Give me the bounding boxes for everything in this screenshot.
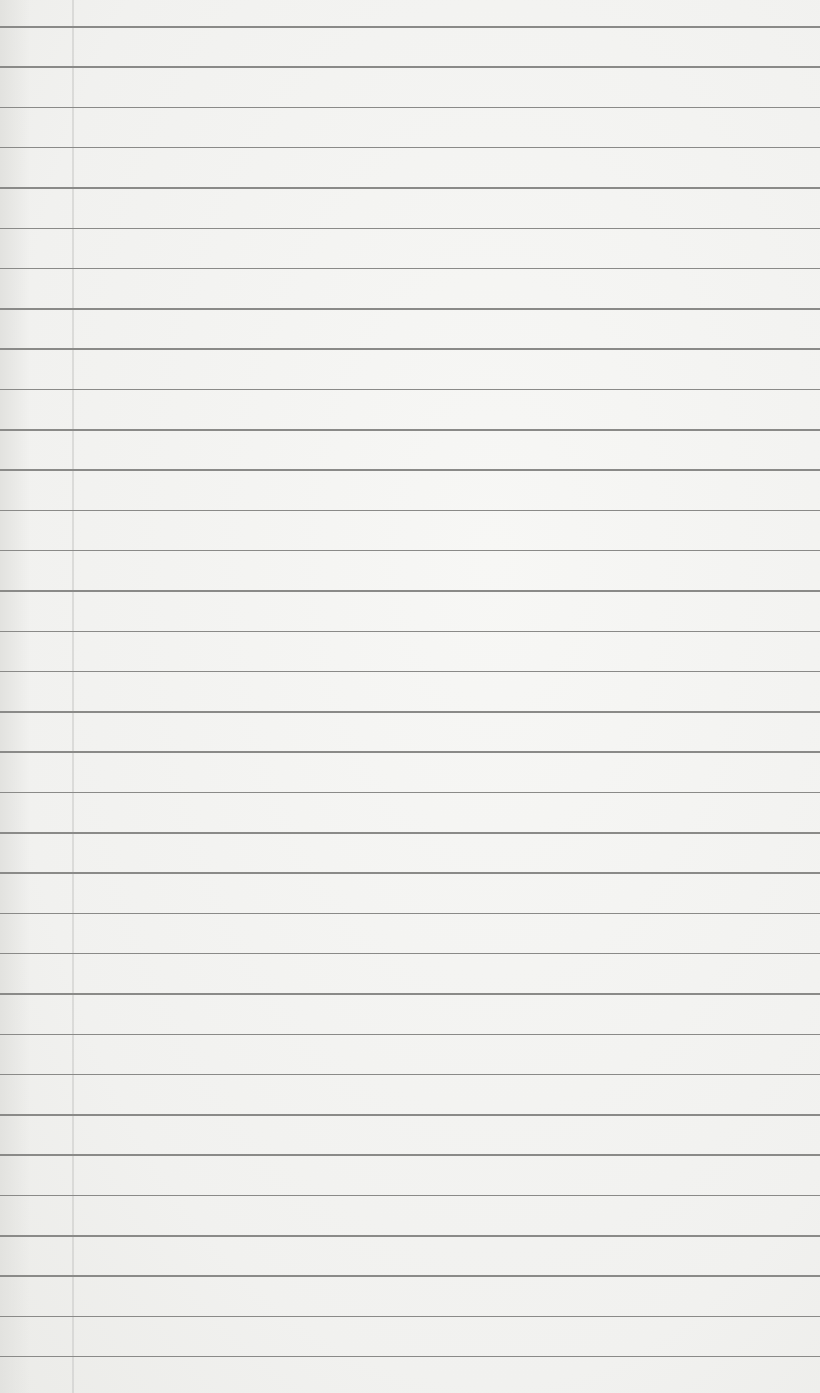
ruled-line	[0, 147, 820, 149]
ruled-line	[0, 1154, 820, 1156]
ruled-line	[0, 1316, 820, 1318]
ruled-line	[0, 1356, 820, 1358]
ruled-line	[0, 348, 820, 350]
ruled-line	[0, 792, 820, 794]
ruled-line	[0, 1235, 820, 1237]
left-edge-shadow	[0, 0, 30, 1393]
lined-paper	[0, 0, 820, 1393]
ruled-line	[0, 429, 820, 431]
ruled-line	[0, 107, 820, 109]
ruled-line	[0, 913, 820, 915]
ruled-line	[0, 590, 820, 592]
ruled-line	[0, 550, 820, 552]
ruled-line	[0, 510, 820, 512]
ruled-line	[0, 389, 820, 391]
ruled-line	[0, 66, 820, 68]
ruled-line	[0, 469, 820, 471]
ruled-line	[0, 26, 820, 28]
margin-line	[72, 0, 74, 1393]
ruled-line	[0, 187, 820, 189]
ruled-line	[0, 872, 820, 874]
ruled-line	[0, 832, 820, 834]
ruled-line	[0, 993, 820, 995]
ruled-line	[0, 1275, 820, 1277]
ruled-line	[0, 1034, 820, 1036]
ruled-line	[0, 228, 820, 230]
ruled-line	[0, 711, 820, 713]
ruled-line	[0, 953, 820, 955]
ruled-line	[0, 308, 820, 310]
ruled-line	[0, 1074, 820, 1076]
ruled-line	[0, 751, 820, 753]
ruled-line	[0, 268, 820, 270]
ruled-line	[0, 1114, 820, 1116]
ruled-line	[0, 631, 820, 633]
ruled-line	[0, 1195, 820, 1197]
ruled-line	[0, 671, 820, 673]
